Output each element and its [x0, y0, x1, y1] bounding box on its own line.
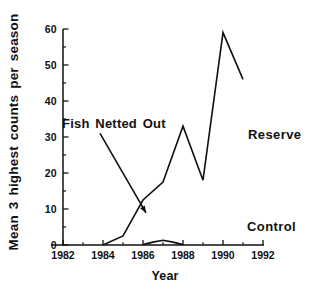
- x-tick-label: 1986: [131, 249, 155, 261]
- y-axis-title: Mean 3 highest counts per season: [6, 14, 21, 251]
- y-tick-labels: 0102030405060: [45, 23, 57, 251]
- y-tick-label: 40: [45, 95, 57, 107]
- y-tick-label: 60: [45, 23, 57, 35]
- x-tick-label: 1984: [91, 249, 115, 261]
- annotation: Fish Netted Out: [62, 116, 166, 213]
- axes: [51, 29, 264, 246]
- y-tick-label: 10: [45, 203, 57, 215]
- control-series-label: Control: [247, 219, 296, 234]
- reserve-series-label: Reserve: [248, 127, 301, 142]
- y-tick-label: 50: [45, 59, 57, 71]
- x-tick-label: 1988: [171, 249, 195, 261]
- chart: Mean 3 highest counts per season Year 19…: [0, 0, 311, 294]
- annotation-text: Fish Netted Out: [62, 116, 166, 131]
- y-ticks: [63, 29, 69, 245]
- reserve-line: [103, 33, 243, 245]
- x-tick-labels: 198219841986198819901992: [51, 249, 275, 261]
- y-tick-label: 20: [45, 167, 57, 179]
- y-tick-label: 0: [51, 239, 57, 251]
- series-lines: [103, 33, 243, 245]
- x-axis-title: Year: [151, 269, 178, 283]
- x-tick-label: 1990: [211, 249, 235, 261]
- x-tick-label: 1992: [251, 249, 275, 261]
- line-chart-figure: Mean 3 highest counts per season Year 19…: [0, 0, 311, 294]
- annotation-arrowhead: [140, 205, 146, 212]
- annotation-arrow-line: [100, 133, 146, 213]
- y-tick-label: 30: [45, 131, 57, 143]
